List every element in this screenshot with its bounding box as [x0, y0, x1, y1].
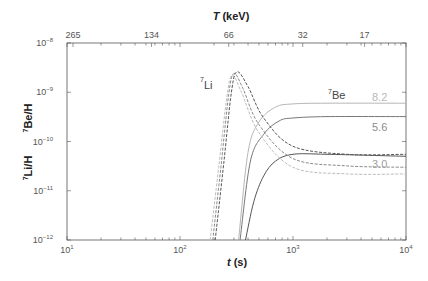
svg-text:7Be/H: 7Be/H	[22, 103, 34, 132]
x-tick-label: 102	[173, 244, 187, 255]
y-axis-ticks: 10−810−910−1010−1110−12	[33, 37, 406, 245]
y-tick-label: 10−10	[33, 136, 54, 147]
chart: 101102103104 10−810−910−1010−1110−12 265…	[0, 0, 428, 281]
x-tick-label: 103	[286, 244, 300, 255]
x-axis-title: t (s)	[227, 256, 248, 268]
y-tick-label: 10−9	[36, 86, 54, 97]
y-tick-label: 10−8	[36, 37, 54, 48]
annotation-eta-3-0: 3.0	[372, 158, 387, 170]
x-tick-label: 101	[60, 244, 74, 255]
top-tick-label: 66	[224, 30, 234, 40]
top-axis-title: T (keV)	[213, 10, 250, 22]
annotation-eta-8-2: 8.2	[372, 91, 387, 103]
top-tick-label: 134	[144, 30, 159, 40]
annotation-7be: 7Be	[328, 88, 345, 101]
svg-text:7Li/H: 7Li/H	[22, 156, 34, 181]
y-tick-label: 10−12	[33, 234, 54, 245]
y-tick-label: 10−11	[33, 185, 53, 196]
x-tick-label: 104	[399, 244, 413, 255]
series-line	[240, 117, 406, 240]
annotation-eta-5-6: 5.6	[372, 121, 387, 133]
top-tick-label: 17	[360, 30, 370, 40]
annotation-7li: 7Li	[200, 76, 212, 91]
top-tick-label: 32	[298, 30, 308, 40]
top-axis-ticks: 265134663217	[65, 30, 369, 47]
top-tick-label: 265	[65, 30, 80, 40]
